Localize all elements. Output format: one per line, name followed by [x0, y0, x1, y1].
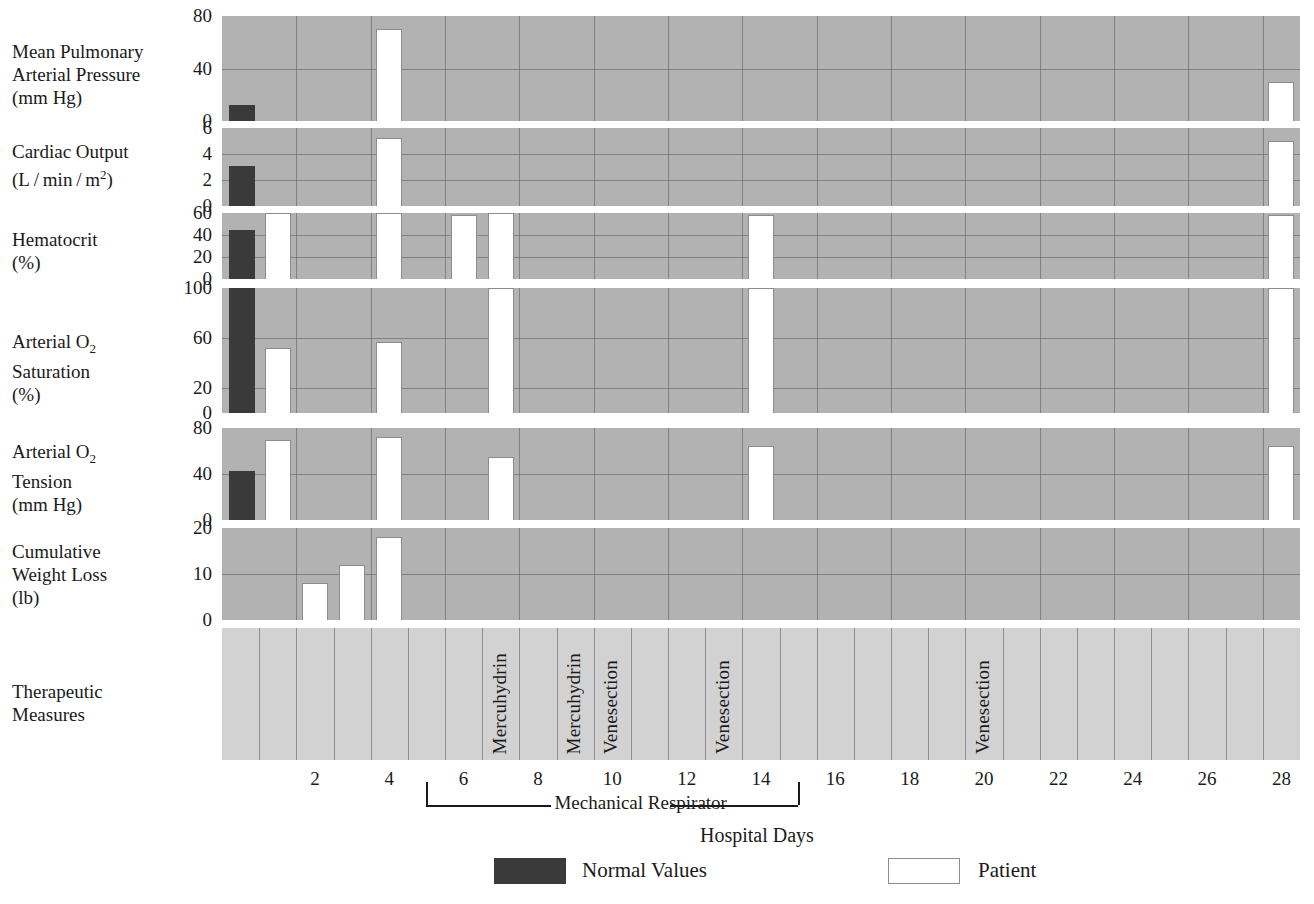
- gridline-vertical: [445, 213, 446, 279]
- therapy-day-divider: [482, 628, 483, 760]
- plot-area-3: [222, 288, 1300, 413]
- therapy-day-divider: [817, 628, 818, 760]
- x-tick-label: 2: [295, 768, 335, 790]
- y-tick-label: 60: [166, 203, 212, 222]
- bar-patient: [1268, 215, 1294, 279]
- therapy-day-divider: [334, 628, 335, 760]
- panel-label-4: Arterial O2Tension(mm Hg): [12, 440, 192, 516]
- gridline-vertical: [668, 128, 669, 206]
- bar-patient: [1268, 141, 1294, 206]
- panel-label-line: Saturation: [12, 360, 192, 383]
- gridline-vertical: [1114, 213, 1115, 279]
- gridline-vertical: [445, 288, 446, 413]
- therapy-day-divider: [1151, 628, 1152, 760]
- therapy-day-divider: [742, 628, 743, 760]
- gridline-vertical: [965, 288, 966, 413]
- panel-label-line: Hematocrit: [12, 228, 192, 251]
- gridline-vertical: [891, 288, 892, 413]
- bar-normal-value: [229, 230, 255, 280]
- bar-patient: [376, 537, 402, 620]
- gridline-vertical: [1188, 288, 1189, 413]
- bar-patient: [376, 437, 402, 520]
- therapy-day-divider: [1263, 628, 1264, 760]
- gridline-vertical: [965, 128, 966, 206]
- bar-patient: [488, 288, 514, 413]
- legend-label-patient: Patient: [978, 858, 1036, 883]
- bar-patient: [451, 215, 477, 279]
- panel-label-1: Cardiac Output(L / min / m2): [12, 140, 192, 191]
- gridline-vertical: [1188, 213, 1189, 279]
- y-tick-label: 20: [166, 247, 212, 266]
- therapy-day-divider: [1040, 628, 1041, 760]
- therapy-day-divider: [1188, 628, 1189, 760]
- y-tick-label: 4: [166, 144, 212, 163]
- bar-patient: [265, 440, 291, 521]
- gridline-vertical: [1040, 288, 1041, 413]
- x-tick-label: 10: [592, 768, 632, 790]
- therapy-day-divider: [1077, 628, 1078, 760]
- x-tick-label: 6: [444, 768, 484, 790]
- bar-patient: [748, 288, 774, 413]
- x-tick-label: 24: [1113, 768, 1153, 790]
- gridline-vertical: [817, 288, 818, 413]
- therapy-label-line: Measures: [12, 703, 192, 726]
- bar-patient: [265, 348, 291, 413]
- panel-label-line: Tension: [12, 470, 192, 493]
- gridline-vertical: [296, 288, 297, 413]
- gridline-vertical: [817, 213, 818, 279]
- gridline-vertical: [742, 213, 743, 279]
- therapy-day-divider: [445, 628, 446, 760]
- gridline-vertical: [1114, 128, 1115, 206]
- x-tick-label: 26: [1187, 768, 1227, 790]
- panel-label-line: Weight Loss: [12, 563, 192, 586]
- x-tick-label: 14: [741, 768, 781, 790]
- x-tick-label: 12: [667, 768, 707, 790]
- gridline-vertical: [519, 288, 520, 413]
- therapy-label-line: Therapeutic: [12, 680, 192, 703]
- bar-normal-value: [229, 471, 255, 520]
- therapy-panel: MercuhydrinMercuhydrinVenesectionVenesec…: [222, 628, 1300, 760]
- panel-label-line: Cumulative: [12, 540, 192, 563]
- y-tick-label: 80: [166, 6, 212, 25]
- therapy-day-divider: [705, 628, 706, 760]
- therapy-day-divider: [891, 628, 892, 760]
- gridline-vertical: [1114, 288, 1115, 413]
- gridline-vertical: [296, 213, 297, 279]
- bar-patient: [1268, 82, 1294, 121]
- panel-label-line: (%): [12, 383, 192, 406]
- plot-area-2: [222, 213, 1300, 279]
- gridline-vertical: [668, 213, 669, 279]
- bar-normal-value: [229, 166, 255, 206]
- gridline-vertical: [1263, 213, 1264, 279]
- panel-label-line: Arterial O2: [12, 440, 192, 470]
- x-tick-label: 16: [815, 768, 855, 790]
- therapy-event-mercuhydrin: Mercuhydrin: [563, 653, 585, 754]
- gridline-vertical: [817, 128, 818, 206]
- legend-label-normal: Normal Values: [582, 858, 707, 883]
- therapy-event-venesection: Venesection: [712, 660, 734, 754]
- bracket-segment: [426, 805, 551, 807]
- bar-patient: [302, 583, 328, 620]
- bar-patient: [376, 29, 402, 121]
- panel-label-line: (mm Hg): [12, 493, 192, 516]
- x-tick-label: 20: [964, 768, 1004, 790]
- panel-label-line: (mm Hg): [12, 86, 192, 109]
- bar-patient: [488, 457, 514, 520]
- panel-label-line: (%): [12, 251, 192, 274]
- chart-figure: Mean PulmonaryArterial Pressure(mm Hg)04…: [0, 0, 1314, 904]
- y-tick-label: 6: [166, 118, 212, 137]
- plot-area-4: [222, 428, 1300, 520]
- x-tick-label: 4: [369, 768, 409, 790]
- x-tick-label: 8: [518, 768, 558, 790]
- therapy-day-divider: [668, 628, 669, 760]
- y-tick-label: 0: [166, 610, 212, 629]
- gridline-vertical: [1263, 128, 1264, 206]
- bar-patient: [376, 213, 402, 279]
- x-tick-label: 22: [1038, 768, 1078, 790]
- gridline-vertical: [371, 128, 372, 206]
- plot-area-5: [222, 528, 1300, 620]
- gridline-vertical: [1040, 128, 1041, 206]
- gridline-vertical: [519, 128, 520, 206]
- panel-label-line: (L / min / m2): [12, 163, 192, 191]
- therapy-day-divider: [594, 628, 595, 760]
